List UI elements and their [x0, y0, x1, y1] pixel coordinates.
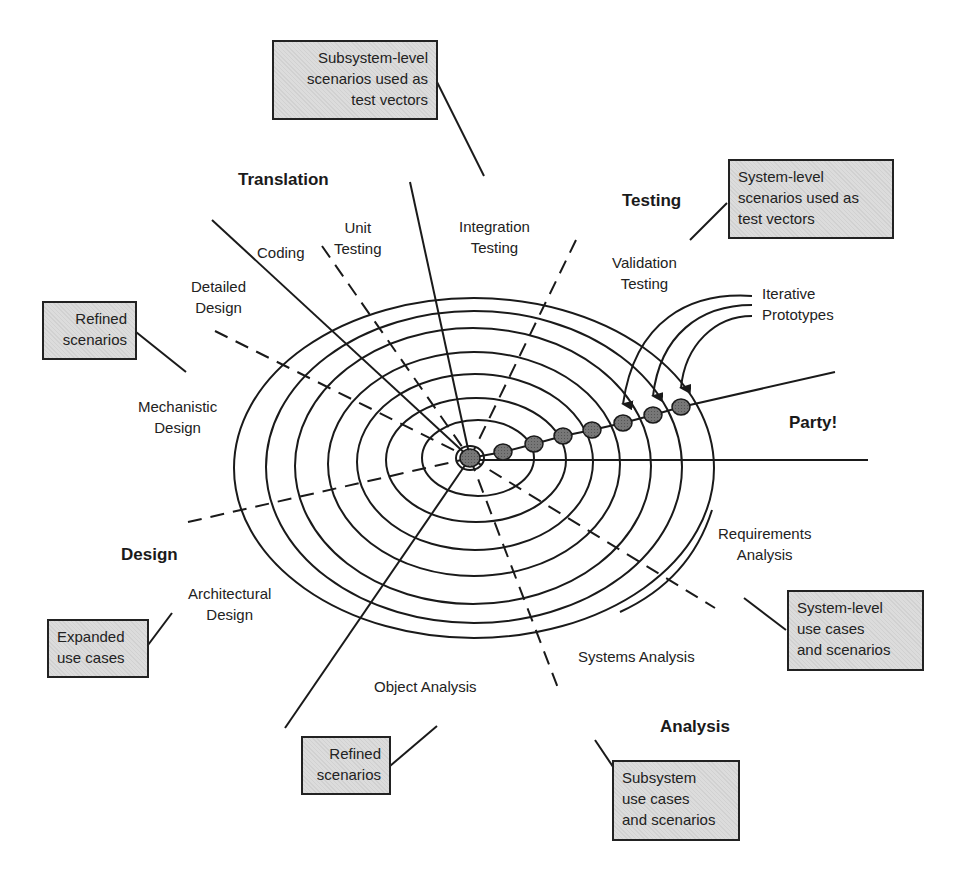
prototype-dot: [614, 415, 632, 431]
label-detailed-design: Detailed Design: [191, 276, 246, 318]
label-unit-testing: Unit Testing: [334, 217, 382, 259]
callout-system-test-vectors: System-level scenarios used as test vect…: [728, 159, 894, 239]
label-coding: Coding: [257, 242, 305, 263]
prototype-dot: [583, 422, 601, 438]
iterative-prototype-arrows: [623, 296, 752, 404]
label-requirements-analysis: Requirements Analysis: [718, 523, 811, 565]
callout-refined-scenarios-analysis: Refined scenarios: [301, 736, 391, 795]
phase-analysis: Analysis: [660, 717, 730, 737]
phase-party: Party!: [789, 413, 837, 433]
label-integration-testing: Integration Testing: [459, 216, 530, 258]
phase-testing: Testing: [622, 191, 681, 211]
label-architectural-design: Architectural Design: [188, 583, 271, 625]
prototype-dot: [525, 436, 543, 452]
callout-system-use-cases: System-level use cases and scenarios: [787, 590, 924, 671]
prototype-dot: [672, 399, 690, 415]
label-iterative-prototypes: Iterative Prototypes: [762, 283, 834, 325]
label-mechanistic-design: Mechanistic Design: [138, 396, 217, 438]
label-validation-testing: Validation Testing: [612, 252, 677, 294]
phase-translation: Translation: [238, 170, 329, 190]
callout-subsystem-test-vectors: Subsystem-level scenarios used as test v…: [272, 40, 438, 120]
spiral-diagram: [0, 0, 960, 881]
callout-refined-scenarios-design: Refined scenarios: [42, 301, 137, 360]
phase-design: Design: [121, 545, 178, 565]
callout-subsystem-use-cases: Subsystem use cases and scenarios: [612, 760, 740, 841]
prototype-dot: [494, 444, 512, 460]
prototype-dot: [460, 449, 480, 467]
label-systems-analysis: Systems Analysis: [578, 646, 695, 667]
radial-solid-lines: [212, 182, 868, 728]
prototype-dot: [644, 407, 662, 423]
callout-expanded-use-cases: Expanded use cases: [47, 619, 149, 678]
prototype-dot: [554, 428, 572, 444]
label-object-analysis: Object Analysis: [374, 676, 477, 697]
